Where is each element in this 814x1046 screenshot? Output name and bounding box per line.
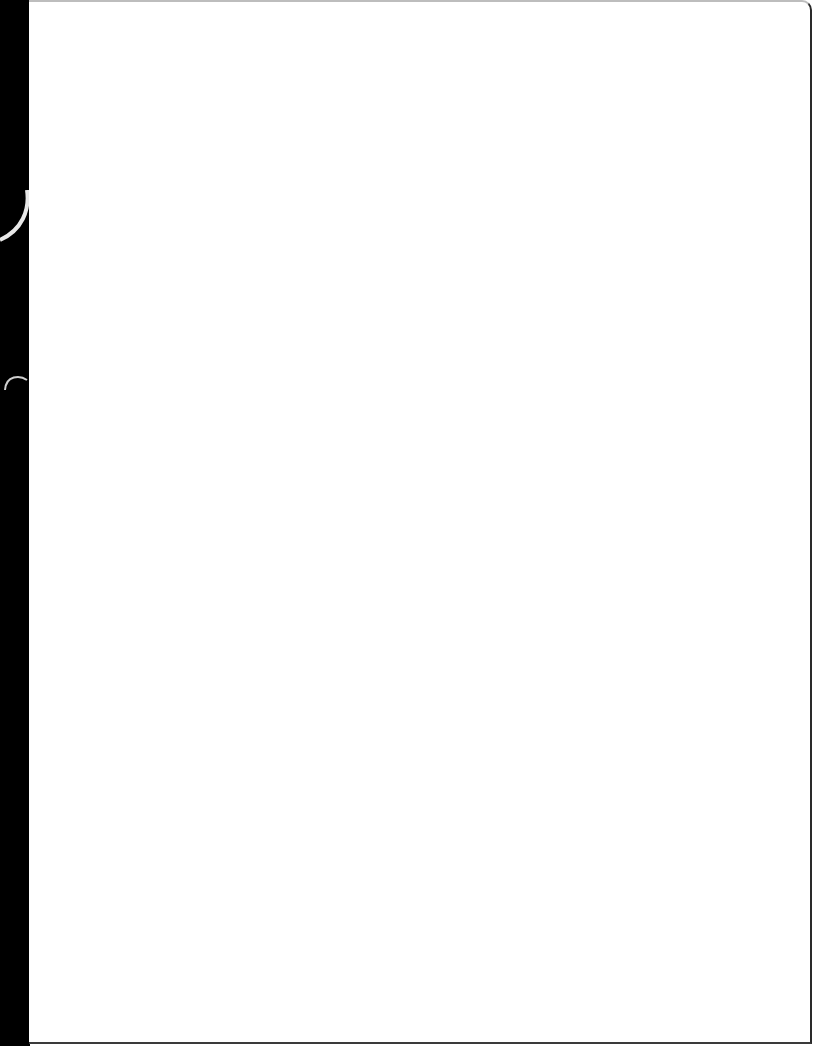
blank-page [29, 0, 812, 1044]
binding-curl-decoration [0, 370, 30, 430]
binding-curl-decoration [0, 190, 30, 250]
scan-background-edge [0, 0, 30, 1046]
